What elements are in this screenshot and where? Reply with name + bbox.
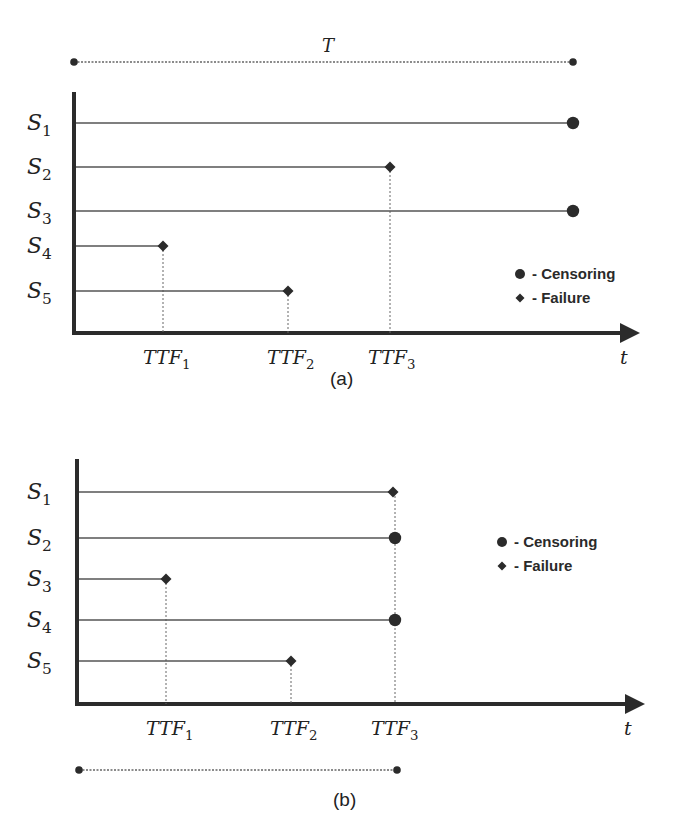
legend-censoring-icon — [515, 269, 525, 279]
unit-label-s5-subscript: 5 — [42, 660, 52, 678]
censoring-circle-icon — [567, 205, 579, 217]
legend-item-circle: - Censoring — [532, 265, 615, 282]
ttf-label-3-base: TTF — [368, 346, 408, 368]
unit-label-s1-base: S — [27, 110, 42, 135]
ttf-label-1: TTF1 — [146, 717, 193, 743]
ttf-label-1-base: TTF — [146, 717, 186, 739]
span-end-dot-icon — [393, 766, 401, 774]
x-axis-label-t: t — [624, 717, 632, 739]
unit-label-s3-subscript: 3 — [42, 210, 52, 228]
failure-diamond-icon — [388, 487, 399, 498]
legend-censoring-icon — [497, 537, 507, 547]
unit-label-s2-base: S — [27, 154, 42, 179]
censoring-diagram: TtTTF1TTF2TTF3S1S2S3S4S5- Censoring- Fai… — [0, 0, 677, 836]
panel-b: tTTF1TTF2TTF3S1S2S3S4S5- Censoring- Fail… — [27, 459, 641, 810]
panel-a: TtTTF1TTF2TTF3S1S2S3S4S5- Censoring- Fai… — [27, 35, 636, 389]
ttf-label-2-base: TTF — [267, 346, 307, 368]
unit-label-s2: S2 — [27, 154, 52, 184]
legend-item-diamond: - Failure — [514, 557, 572, 574]
panel-caption-a: (a) — [330, 368, 353, 389]
unit-label-s1: S1 — [27, 479, 52, 509]
ttf-label-2: TTF2 — [267, 346, 314, 372]
failure-diamond-icon — [385, 162, 396, 173]
failure-diamond-icon — [158, 241, 169, 252]
span-start-dot-icon — [70, 58, 78, 66]
unit-label-s5-subscript: 5 — [42, 290, 52, 308]
unit-label-s3-subscript: 3 — [42, 578, 52, 596]
ttf-label-3-base: TTF — [371, 717, 411, 739]
failure-diamond-icon — [286, 656, 297, 667]
failure-diamond-icon — [161, 574, 172, 585]
unit-label-s3-base: S — [27, 198, 42, 223]
unit-label-s4-base: S — [27, 233, 42, 258]
ttf-label-3: TTF3 — [368, 346, 415, 372]
unit-label-s4-base: S — [27, 607, 42, 632]
unit-label-s3: S3 — [27, 566, 52, 596]
unit-label-s2-subscript: 2 — [42, 166, 52, 184]
ttf-label-3: TTF3 — [371, 717, 418, 743]
unit-label-s5-base: S — [27, 648, 42, 673]
unit-label-s4-subscript: 4 — [42, 245, 52, 263]
unit-label-s1: S1 — [27, 110, 52, 140]
unit-label-s2-subscript: 2 — [42, 537, 52, 555]
unit-label-s5: S5 — [27, 648, 52, 678]
censoring-circle-icon — [389, 532, 401, 544]
unit-label-s1-base: S — [27, 479, 42, 504]
unit-label-s3: S3 — [27, 198, 52, 228]
span-end-dot-icon — [569, 58, 577, 66]
ttf-label-3-subscript: 3 — [410, 728, 418, 743]
ttf-label-1-subscript: 1 — [182, 357, 190, 372]
failure-diamond-icon — [283, 286, 294, 297]
unit-label-s3-base: S — [27, 566, 42, 591]
unit-label-s1-subscript: 1 — [42, 122, 52, 140]
unit-label-s2-base: S — [27, 525, 42, 550]
ttf-label-1-base: TTF — [143, 346, 183, 368]
legend-item-diamond: - Failure — [532, 289, 590, 306]
unit-label-s2: S2 — [27, 525, 52, 555]
span-label-T: T — [322, 35, 336, 56]
unit-label-s1-subscript: 1 — [42, 491, 52, 509]
ttf-label-2-base: TTF — [270, 717, 310, 739]
unit-label-s4-subscript: 4 — [42, 619, 52, 637]
legend-failure-icon — [516, 294, 525, 303]
unit-label-s4: S4 — [27, 607, 52, 637]
unit-label-s5: S5 — [27, 278, 52, 308]
ttf-label-1: TTF1 — [143, 346, 190, 372]
span-start-dot-icon — [75, 766, 83, 774]
x-axis-label-t: t — [620, 346, 628, 368]
panel-caption-b: (b) — [333, 789, 356, 810]
legend-failure-icon — [498, 562, 507, 571]
unit-label-s5-base: S — [27, 278, 42, 303]
ttf-label-1-subscript: 1 — [185, 728, 193, 743]
ttf-label-2: TTF2 — [270, 717, 317, 743]
unit-label-s4: S4 — [27, 233, 52, 263]
ttf-label-2-subscript: 2 — [306, 357, 314, 372]
ttf-label-2-subscript: 2 — [309, 728, 317, 743]
censoring-circle-icon — [567, 117, 579, 129]
censoring-circle-icon — [389, 614, 401, 626]
ttf-label-3-subscript: 3 — [407, 357, 415, 372]
legend-item-circle: - Censoring — [514, 533, 597, 550]
